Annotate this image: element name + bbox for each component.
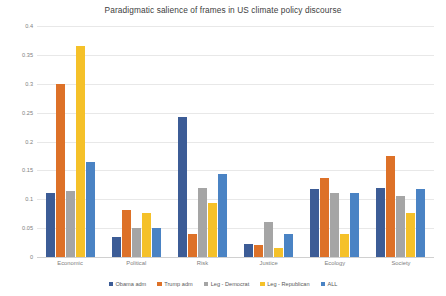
bar[interactable] <box>122 210 131 257</box>
legend-item[interactable]: ALL <box>321 281 338 287</box>
x-axis-tick-label: Political <box>103 260 169 266</box>
bar[interactable] <box>340 234 349 257</box>
bar[interactable] <box>178 117 187 257</box>
bar[interactable] <box>56 84 65 257</box>
bar[interactable] <box>386 156 395 257</box>
bar[interactable] <box>376 188 385 257</box>
bar[interactable] <box>132 228 141 257</box>
bar[interactable] <box>152 228 161 257</box>
bar[interactable] <box>330 193 339 257</box>
bar[interactable] <box>264 222 273 257</box>
y-axis-tick-label: 0.15 <box>22 167 33 173</box>
legend-label: Leg - Democrat <box>211 281 250 287</box>
x-axis-line: 0 <box>37 257 434 258</box>
x-axis-tick-label: Society <box>368 260 434 266</box>
bar[interactable] <box>406 213 415 257</box>
bar-group <box>169 26 235 257</box>
bar[interactable] <box>396 196 405 257</box>
bar[interactable] <box>274 248 283 257</box>
bar-group <box>302 26 368 257</box>
legend-swatch-icon <box>109 282 114 287</box>
x-axis-tick-label: Economic <box>37 260 103 266</box>
bar-group <box>37 26 103 257</box>
legend-item[interactable]: Leg - Republican <box>260 281 309 287</box>
legend-swatch-icon <box>260 282 265 287</box>
bar[interactable] <box>46 193 55 257</box>
bar[interactable] <box>416 189 425 257</box>
bar[interactable] <box>208 203 217 257</box>
bar-groups <box>37 26 434 257</box>
legend-item[interactable]: Trump adm <box>157 281 192 287</box>
y-axis-tick-label: 0.2 <box>25 139 33 145</box>
legend-item[interactable]: Leg - Democrat <box>204 281 250 287</box>
bar-chart: Paradigmatic salience of frames in US cl… <box>0 0 446 296</box>
bar-group <box>236 26 302 257</box>
y-axis-tick-label: 0 <box>30 254 33 260</box>
bar[interactable] <box>198 188 207 257</box>
y-axis-tick-label: 0.35 <box>22 52 33 58</box>
bar[interactable] <box>218 174 227 257</box>
chart-title: Paradigmatic salience of frames in US cl… <box>0 5 446 15</box>
bar[interactable] <box>284 234 293 257</box>
bar-group <box>368 26 434 257</box>
legend-label: Leg - Republican <box>267 281 309 287</box>
bar[interactable] <box>142 213 151 257</box>
y-axis-tick-label: 0.3 <box>25 81 33 87</box>
bar-group <box>103 26 169 257</box>
legend-swatch-icon <box>157 282 162 287</box>
legend-label: Trump adm <box>164 281 192 287</box>
chart-legend: Obama admTrump admLeg - DemocratLeg - Re… <box>0 281 446 287</box>
bar[interactable] <box>112 237 121 257</box>
x-axis-labels: EconomicPoliticalRiskJusticeEcologySocie… <box>37 260 434 266</box>
bar[interactable] <box>310 189 319 257</box>
y-axis-tick-label: 0.25 <box>22 110 33 116</box>
legend-swatch-icon <box>204 282 209 287</box>
bar[interactable] <box>320 178 329 257</box>
legend-label: Obama adm <box>116 281 147 287</box>
bar[interactable] <box>350 193 359 257</box>
x-axis-tick-label: Ecology <box>302 260 368 266</box>
bar[interactable] <box>244 244 253 257</box>
bar[interactable] <box>188 234 197 257</box>
plot-area: 00.050.10.150.20.250.30.350.4 <box>37 26 434 257</box>
bar[interactable] <box>76 46 85 257</box>
x-axis-tick-label: Justice <box>236 260 302 266</box>
y-axis-tick-label: 0.1 <box>25 196 33 202</box>
x-axis-tick-label: Risk <box>169 260 235 266</box>
legend-label: ALL <box>328 281 338 287</box>
legend-item[interactable]: Obama adm <box>109 281 147 287</box>
bar[interactable] <box>254 245 263 257</box>
bar[interactable] <box>66 191 75 257</box>
legend-swatch-icon <box>321 282 326 287</box>
y-axis-tick-label: 0.4 <box>25 23 33 29</box>
y-axis-tick-label: 0.05 <box>22 225 33 231</box>
bar[interactable] <box>86 162 95 257</box>
